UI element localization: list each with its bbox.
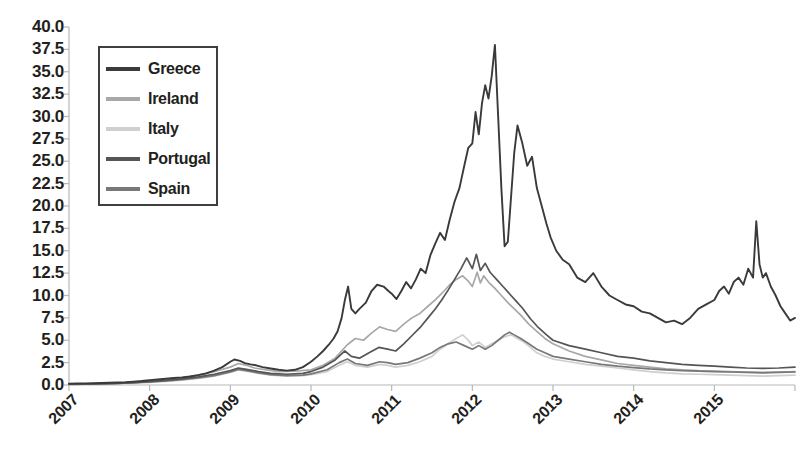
sovereign-cds-line-chart: 40.037.535.032.530.027.525.022.520.017.5… (0, 0, 807, 457)
y-tick-label: 37.5 (6, 40, 64, 57)
y-axis-labels: 40.037.535.032.530.027.525.022.520.017.5… (0, 0, 64, 457)
series-line-portugal (69, 254, 795, 384)
series-line-ireland (69, 272, 795, 384)
legend-item-spain[interactable]: Spain (100, 174, 216, 204)
y-tick-label: 25.0 (6, 152, 64, 169)
y-tick-label: 20.0 (6, 197, 64, 214)
y-tick-label: 12.5 (6, 264, 64, 281)
y-tick-label: 17.5 (6, 219, 64, 236)
legend-item-italy[interactable]: Italy (100, 114, 216, 144)
y-tick-label: 10.0 (6, 287, 64, 304)
y-tick-label: 15.0 (6, 242, 64, 259)
legend-swatch-icon (106, 67, 140, 71)
legend-label: Spain (148, 180, 190, 198)
legend-label: Italy (148, 120, 179, 138)
x-axis-ticks (69, 385, 795, 391)
y-tick-label: 2.5 (6, 354, 64, 371)
y-axis-ticks (64, 27, 69, 385)
legend-label: Ireland (148, 90, 198, 108)
chart-legend: GreeceIrelandItalyPortugalSpain (98, 46, 218, 206)
legend-label: Portugal (148, 150, 211, 168)
legend-item-portugal[interactable]: Portugal (100, 144, 216, 174)
legend-label: Greece (148, 60, 200, 78)
y-tick-label: 22.5 (6, 175, 64, 192)
legend-swatch-icon (106, 157, 140, 161)
y-tick-label: 32.5 (6, 85, 64, 102)
y-tick-label: 40.0 (6, 18, 64, 35)
legend-swatch-icon (106, 127, 140, 131)
legend-swatch-icon (106, 97, 140, 101)
y-tick-label: 35.0 (6, 63, 64, 80)
y-tick-label: 5.0 (6, 331, 64, 348)
y-tick-label: 30.0 (6, 108, 64, 125)
legend-swatch-icon (106, 187, 140, 191)
y-tick-label: 27.5 (6, 130, 64, 147)
legend-item-greece[interactable]: Greece (100, 54, 216, 84)
y-tick-label: 7.5 (6, 309, 64, 326)
y-tick-label: 0.0 (6, 376, 64, 393)
series-line-spain (69, 332, 795, 384)
legend-item-ireland[interactable]: Ireland (100, 84, 216, 114)
